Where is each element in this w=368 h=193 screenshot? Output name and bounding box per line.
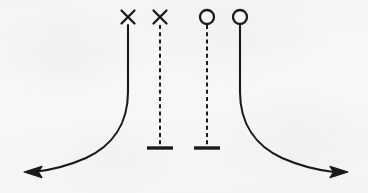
branch-3-group xyxy=(194,10,220,148)
branch-1-curve xyxy=(34,25,128,172)
schematic-figure xyxy=(0,0,368,193)
x-marker-icon-1 xyxy=(122,11,135,24)
x-marker-icon-2 xyxy=(154,11,167,24)
circle-marker-icon-2 xyxy=(233,10,247,24)
circle-marker-icon-1 xyxy=(200,10,214,24)
branch-1-group xyxy=(24,11,135,178)
diagram-canvas xyxy=(0,0,368,193)
branch-2-group xyxy=(147,11,173,149)
branch-4-curve xyxy=(240,25,334,172)
branch-4-group xyxy=(233,10,348,178)
